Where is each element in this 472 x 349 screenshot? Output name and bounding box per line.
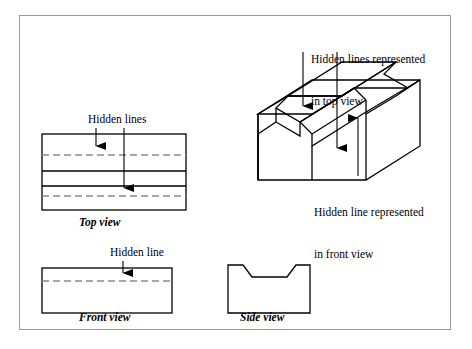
front-view-drawing xyxy=(42,268,172,313)
label-hidden-line-front-view: Hidden line represented in front view xyxy=(314,177,424,289)
isometric-groove-left-near-face xyxy=(276,108,300,136)
label-hidden-line: Hidden line xyxy=(110,245,164,259)
label-front-view: Front view xyxy=(79,310,130,324)
side-view-drawing xyxy=(228,265,310,313)
label-hidden-lines: Hidden lines xyxy=(88,112,146,126)
side-view-outline xyxy=(228,265,310,313)
label-side-view: Side view xyxy=(240,310,284,324)
technical-drawing-figure: Hidden lines Hidden line Hidden lines re… xyxy=(0,0,472,349)
label-top-view: Top view xyxy=(79,215,120,229)
label-hidden-lines-top-view-line2: in top view xyxy=(311,94,425,108)
label-hidden-lines-top-view: Hidden lines represented in top view xyxy=(311,24,425,136)
isometric-left-near-edge xyxy=(258,122,276,134)
hidden-lines-leaders xyxy=(96,128,124,188)
label-hidden-line-front-view-line1: Hidden line represented xyxy=(314,205,424,219)
label-hidden-lines-top-view-line1: Hidden lines represented xyxy=(311,52,425,66)
front-view-outline xyxy=(42,268,172,313)
label-hidden-line-front-view-line2: in front view xyxy=(314,247,424,261)
top-view-outline xyxy=(42,134,186,210)
top-view-drawing xyxy=(42,134,186,210)
